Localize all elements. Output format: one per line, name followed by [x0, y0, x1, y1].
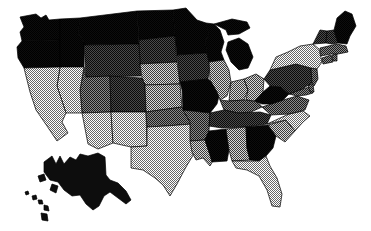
- us-choropleth-map-figure: [0, 0, 371, 231]
- state-new-jersey[interactable]: [311, 68, 318, 86]
- state-wisconsin[interactable]: [205, 23, 224, 62]
- state-alaska[interactable]: [38, 153, 131, 210]
- inset-states-group: [25, 153, 131, 221]
- state-oregon[interactable]: [17, 40, 60, 68]
- state-washington[interactable]: [20, 14, 60, 41]
- state-montana[interactable]: [78, 11, 139, 45]
- state-minnesota[interactable]: [173, 8, 209, 55]
- state-connecticut[interactable]: [322, 55, 333, 64]
- state-maine[interactable]: [334, 11, 356, 44]
- state-colorado[interactable]: [110, 76, 146, 112]
- state-hawaii[interactable]: [25, 191, 49, 221]
- state-north-dakota[interactable]: [137, 10, 175, 40]
- state-rhode-island[interactable]: [332, 54, 337, 61]
- state-nebraska[interactable]: [140, 62, 180, 85]
- state-arizona[interactable]: [82, 112, 113, 149]
- state-wyoming[interactable]: [84, 44, 141, 77]
- state-iowa[interactable]: [177, 53, 210, 82]
- us-choropleth-svg: [0, 0, 371, 231]
- state-south-dakota[interactable]: [139, 36, 177, 64]
- state-massachusetts[interactable]: [320, 44, 348, 56]
- state-vermont[interactable]: [313, 30, 327, 44]
- state-florida[interactable]: [232, 156, 282, 207]
- state-new-mexico[interactable]: [111, 112, 147, 147]
